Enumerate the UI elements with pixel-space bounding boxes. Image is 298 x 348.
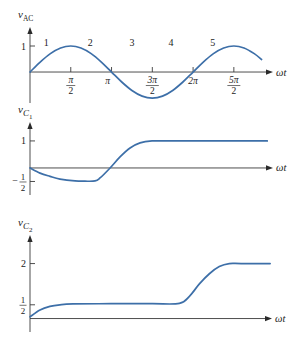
vc2-panel: ωtvC2212 [18, 216, 286, 332]
x-axis-label: ωt [276, 67, 287, 78]
y-tick-numerator: 1 [21, 172, 26, 182]
x-tick-numerator: 5π [229, 75, 239, 85]
series-curve-v-c2 [30, 263, 270, 317]
x-axis-arrowhead [266, 165, 273, 170]
y-tick-sign: − [12, 175, 18, 186]
y-axis-label: vC2 [18, 216, 33, 234]
region-label: 1 [44, 37, 49, 48]
y-axis-arrowhead [27, 27, 32, 34]
vac-panel: ωtvACπ2π3π22π5π2112345 [18, 8, 287, 103]
y-label-subsubscript: 1 [29, 113, 33, 121]
y-tick-label: 1 [21, 41, 26, 52]
y-tick-denominator: 2 [21, 183, 26, 193]
x-tick-label: π [105, 76, 110, 86]
x-axis-label: ωt [275, 313, 286, 324]
series-curve-v-c1 [30, 141, 267, 181]
y-tick-label: 1 [21, 135, 26, 146]
y-tick-denominator: 2 [21, 306, 26, 316]
x-tick-denominator: 2 [150, 86, 155, 96]
region-label: 3 [129, 37, 134, 48]
x-axis-arrowhead [266, 69, 273, 74]
y-axis-arrowhead [27, 235, 32, 242]
y-label-subscript: AC [23, 14, 33, 23]
x-tick-numerator: π [68, 75, 73, 85]
x-axis-label: ωt [276, 162, 287, 173]
waveform-figure: ωtvACπ2π3π22π5π2112345ωtvC11−12ωtvC2212 [0, 0, 298, 348]
y-label-subsubscript: 2 [29, 226, 33, 234]
y-tick-label: 2 [21, 258, 26, 269]
y-tick-numerator: 1 [21, 295, 26, 305]
y-axis-label: vAC [18, 8, 33, 23]
region-label: 5 [210, 37, 215, 48]
y-axis-arrowhead [27, 122, 32, 129]
x-tick-numerator: 3π [147, 75, 158, 85]
vc1-panel: ωtvC11−12 [12, 103, 287, 195]
region-label: 2 [88, 37, 93, 48]
x-tick-label: 2π [188, 76, 198, 86]
y-axis-label: vC1 [18, 103, 33, 121]
region-label: 4 [169, 37, 174, 48]
x-tick-denominator: 2 [231, 86, 236, 96]
x-tick-denominator: 2 [68, 86, 73, 96]
x-axis-arrowhead [265, 316, 272, 321]
